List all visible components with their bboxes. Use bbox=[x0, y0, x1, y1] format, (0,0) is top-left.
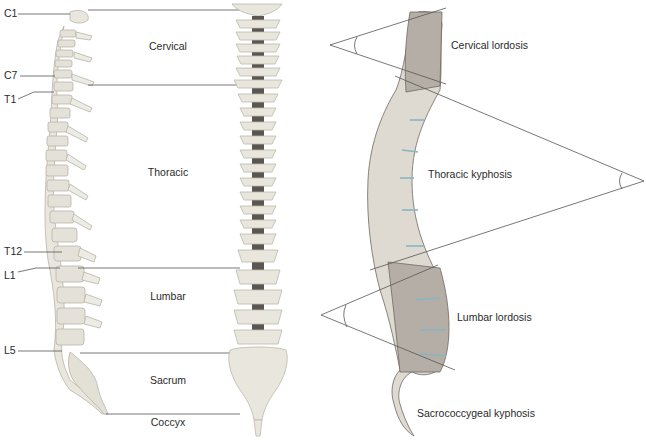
region-label-sacrum: Sacrum bbox=[150, 374, 186, 386]
spine-diagram bbox=[0, 0, 646, 447]
curvature-spine bbox=[368, 12, 449, 437]
curvature-label-lumbar-lordosis: Lumbar lordosis bbox=[457, 311, 532, 323]
region-label-thoracic: Thoracic bbox=[148, 166, 188, 178]
vertebra-label-l1: L1 bbox=[4, 269, 16, 281]
posterior-spine bbox=[229, 4, 288, 436]
vertebra-label-t1: T1 bbox=[4, 93, 16, 105]
vertebra-label-c7: C7 bbox=[4, 69, 17, 81]
vertebra-label-c1: C1 bbox=[4, 7, 17, 19]
curvature-label-cervical-lordosis: Cervical lordosis bbox=[451, 39, 528, 51]
curvature-label-thoracic-kyphosis: Thoracic kyphosis bbox=[428, 168, 512, 180]
region-label-lumbar: Lumbar bbox=[150, 290, 186, 302]
lateral-spine bbox=[45, 10, 108, 414]
curvature-label-sacrococcygeal-kyphosis: Sacrococcygeal kyphosis bbox=[417, 407, 535, 419]
region-boundary-lines bbox=[78, 10, 240, 414]
region-label-cervical: Cervical bbox=[149, 40, 187, 52]
region-label-coccyx: Coccyx bbox=[151, 416, 185, 428]
vertebra-label-l5: L5 bbox=[4, 344, 16, 356]
vertebra-label-t12: T12 bbox=[4, 245, 22, 257]
